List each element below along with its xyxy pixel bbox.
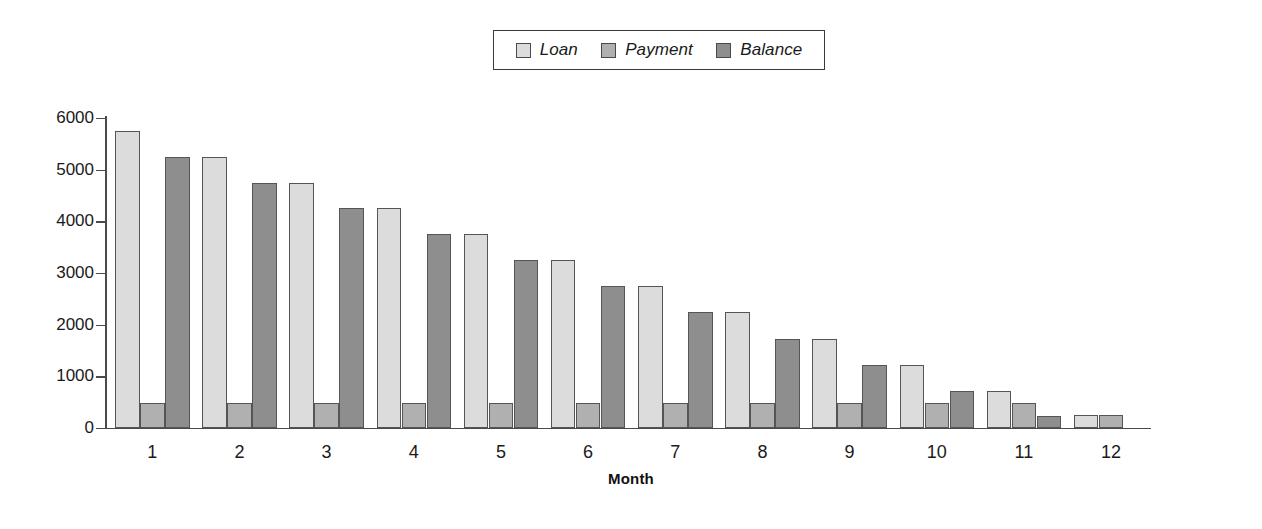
- y-axis-tick-label: 1000: [34, 366, 94, 386]
- bar-loan-month-8: [725, 312, 750, 428]
- bar-balance-month-8: [775, 339, 800, 428]
- x-axis-tick-label-6: 6: [583, 442, 593, 463]
- bar-payment-month-9: [837, 403, 862, 428]
- bar-loan-month-6: [551, 260, 576, 428]
- bar-payment-month-10: [925, 403, 950, 428]
- bar-payment-month-2: [227, 403, 252, 428]
- x-axis-tick-label-4: 4: [409, 442, 419, 463]
- bar-payment-month-5: [489, 403, 514, 428]
- bar-balance-month-4: [427, 234, 452, 428]
- bar-balance-month-7: [688, 312, 713, 428]
- y-axis-tick-label: 4000: [34, 211, 94, 231]
- bar-loan-month-7: [638, 286, 663, 428]
- bar-loan-month-3: [289, 183, 314, 428]
- bar-balance-month-1: [165, 157, 190, 428]
- bar-balance-month-9: [862, 365, 887, 428]
- bar-payment-month-8: [750, 403, 775, 428]
- bar-loan-month-11: [987, 391, 1012, 428]
- bar-balance-month-10: [950, 391, 975, 428]
- x-axis-tick-label-10: 10: [927, 442, 947, 463]
- x-axis-tick-label-11: 11: [1015, 442, 1034, 463]
- bar-payment-month-12: [1099, 415, 1124, 428]
- legend-label: Payment: [625, 40, 693, 60]
- bar-payment-month-7: [663, 403, 688, 428]
- bar-balance-month-11: [1037, 416, 1062, 428]
- legend-swatch-balance-icon: [716, 43, 731, 58]
- bar-loan-month-10: [900, 365, 925, 428]
- bar-group-month-1: [115, 118, 190, 428]
- bar-group-month-7: [638, 118, 713, 428]
- bar-payment-month-4: [402, 403, 427, 428]
- bar-loan-month-1: [115, 131, 140, 428]
- bar-group-month-12: [1074, 118, 1149, 428]
- y-axis-tick-label: 2000: [34, 315, 94, 335]
- y-axis-tick-mark: [96, 221, 105, 222]
- y-axis-tick-mark: [96, 325, 105, 326]
- bar-loan-month-2: [202, 157, 227, 428]
- x-axis-tick-label-8: 8: [757, 442, 767, 463]
- bar-loan-month-5: [464, 234, 489, 428]
- bar-balance-month-5: [514, 260, 539, 428]
- x-axis-tick-label-2: 2: [234, 442, 244, 463]
- legend-entry-loan: Loan: [516, 40, 578, 60]
- bar-group-month-9: [812, 118, 887, 428]
- y-axis-tick-label: 6000: [34, 108, 94, 128]
- bar-group-month-4: [377, 118, 452, 428]
- x-axis-tick-label-3: 3: [322, 442, 332, 463]
- y-axis-tick-label: 3000: [34, 263, 94, 283]
- legend-entry-balance: Balance: [716, 40, 802, 60]
- bar-group-month-2: [202, 118, 277, 428]
- bar-group-month-5: [464, 118, 539, 428]
- x-axis-tick-label-7: 7: [670, 442, 680, 463]
- legend-swatch-loan-icon: [516, 43, 531, 58]
- plot-area: 0100020003000400050006000: [105, 118, 1151, 428]
- bar-chart: LoanPaymentBalance 010002000300040005000…: [0, 0, 1262, 529]
- x-axis-tick-label-12: 12: [1101, 442, 1121, 463]
- x-axis-title: Month: [0, 470, 1262, 487]
- y-axis-tick-label: 5000: [34, 160, 94, 180]
- y-axis-tick-mark: [96, 170, 105, 171]
- x-axis-tick-label-1: 1: [147, 442, 157, 463]
- legend-swatch-payment-icon: [601, 43, 616, 58]
- bar-loan-month-4: [377, 208, 402, 428]
- bar-group-month-3: [289, 118, 364, 428]
- chart-legend: LoanPaymentBalance: [493, 30, 825, 70]
- y-axis-tick-mark: [96, 118, 105, 119]
- bar-balance-month-3: [339, 208, 364, 428]
- y-axis-tick-mark: [96, 376, 105, 377]
- bar-balance-month-6: [601, 286, 626, 428]
- bar-payment-month-6: [576, 403, 601, 428]
- bar-loan-month-9: [812, 339, 837, 428]
- bar-group-month-11: [987, 118, 1062, 428]
- bar-group-month-10: [900, 118, 975, 428]
- y-axis-tick-mark: [96, 428, 105, 429]
- bar-group-month-6: [551, 118, 626, 428]
- x-axis-tick-label-5: 5: [496, 442, 506, 463]
- bar-payment-month-11: [1012, 403, 1037, 428]
- bar-loan-month-12: [1074, 415, 1099, 428]
- bar-balance-month-2: [252, 183, 277, 428]
- y-axis-tick-label: 0: [34, 418, 94, 438]
- y-axis-tick-mark: [96, 273, 105, 274]
- x-axis-tick-label-9: 9: [845, 442, 855, 463]
- bar-payment-month-1: [140, 403, 165, 428]
- bar-group-month-8: [725, 118, 800, 428]
- legend-label: Balance: [740, 40, 802, 60]
- legend-entry-payment: Payment: [601, 40, 693, 60]
- legend-label: Loan: [540, 40, 578, 60]
- bar-payment-month-3: [314, 403, 339, 428]
